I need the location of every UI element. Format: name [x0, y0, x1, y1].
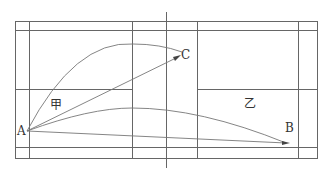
trajectory-a-to-b-straight [27, 131, 286, 143]
region-yi-label: 乙 [244, 98, 256, 110]
region-jia-label: 甲 [50, 99, 62, 111]
arrowhead-c-icon [173, 55, 181, 61]
point-a-label: A [17, 125, 26, 137]
point-c-label: C [181, 49, 190, 61]
court-diagram [0, 0, 330, 179]
arrowhead-b-icon [282, 141, 290, 145]
trajectory-a-to-c-curve [27, 44, 182, 131]
trajectory-a-to-b-curve [27, 108, 286, 143]
point-b-label: B [285, 122, 294, 134]
